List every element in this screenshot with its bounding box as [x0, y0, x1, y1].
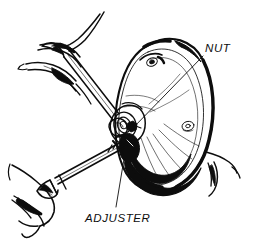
illustration-figure: NUT ADJUSTER — [0, 0, 258, 243]
callout-label-adjuster: ADJUSTER — [84, 212, 151, 224]
callout-label-nut: NUT — [205, 42, 231, 54]
brake-adjuster-line-drawing: NUT ADJUSTER — [0, 0, 258, 243]
